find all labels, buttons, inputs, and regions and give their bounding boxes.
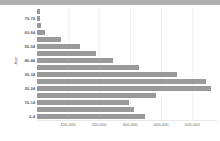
x-tick-300000: 300,000: [123, 122, 138, 127]
bar-50-54[interactable]: [37, 44, 80, 48]
plot-area: [37, 8, 217, 120]
population-by-age-bar-chart: Age 70-7460-6450-5440-4430-3420-2410-140…: [0, 6, 220, 141]
bar-5-9[interactable]: [37, 107, 134, 111]
y-tick-70-74: 70-74: [1, 16, 35, 21]
y-tick-10-14: 10-14: [1, 100, 35, 105]
y-tick-60-64: 60-64: [1, 30, 35, 35]
bar-35-39[interactable]: [37, 65, 139, 69]
bar-30-34[interactable]: [37, 72, 177, 76]
bar-55-59[interactable]: [37, 37, 61, 41]
gridline-400000: [161, 8, 162, 120]
bar-40-44[interactable]: [37, 58, 113, 62]
bar-65-69[interactable]: [37, 23, 41, 27]
y-axis-tick-labels: 70-7460-6450-5440-4430-3420-2410-140-4: [0, 8, 35, 120]
bar-0-4[interactable]: [37, 114, 145, 118]
gridline-300000: [130, 8, 131, 120]
y-tick-20-24: 20-24: [1, 86, 35, 91]
x-tick-400000: 400,000: [154, 122, 169, 127]
bar-60-64[interactable]: [37, 30, 45, 34]
y-tick-50-54: 50-54: [1, 44, 35, 49]
bar-10-14[interactable]: [37, 100, 129, 104]
x-tick-100000: 100,000: [60, 122, 75, 127]
y-tick-30-34: 30-34: [1, 72, 35, 77]
top-banner-bar: [0, 0, 220, 5]
y-tick-0-4: 0-4: [1, 114, 35, 119]
gridline-500000: [192, 8, 193, 120]
x-tick-200000: 200,000: [91, 122, 106, 127]
x-axis-tick-labels: 100,000200,000300,000400,000500,000: [37, 122, 217, 132]
bar-20-24[interactable]: [37, 86, 211, 90]
bar-75+[interactable]: [37, 9, 40, 13]
bar-15-19[interactable]: [37, 93, 156, 97]
x-tick-500000: 500,000: [185, 122, 200, 127]
y-tick-40-44: 40-44: [1, 58, 35, 63]
x-axis-baseline: [37, 120, 217, 121]
bar-45-49[interactable]: [37, 51, 96, 55]
bar-25-29[interactable]: [37, 79, 206, 83]
bar-70-74[interactable]: [37, 16, 40, 20]
